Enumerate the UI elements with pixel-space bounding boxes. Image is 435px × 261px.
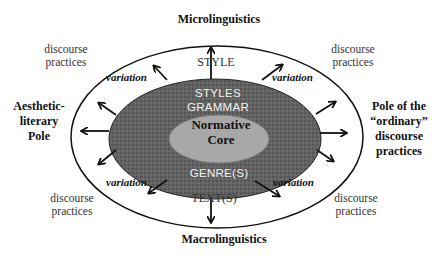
genres-label: GENRE(S) xyxy=(183,166,255,180)
discourse-practices-top-right: discourse practices xyxy=(323,43,383,69)
discourse-practices-bottom-right: discourse practices xyxy=(326,192,386,218)
microlinguistics-label: Microlinguistics xyxy=(172,13,266,26)
macrolinguistics-label: Macrolinguistics xyxy=(176,233,272,246)
variation-label-bottom-left: variation xyxy=(106,176,147,189)
texts-label: TEXT(S) xyxy=(186,192,242,205)
aesthetic-literary-pole-label: Aesthetic- literary Pole xyxy=(6,99,72,144)
style-label: STYLE xyxy=(191,56,241,69)
variation-label-top-left: variation xyxy=(106,71,147,84)
normative-core-label: Normative Core xyxy=(184,117,258,147)
styles-grammar-label: STYLES GRAMMAR xyxy=(175,86,261,114)
discourse-practices-bottom-left: discourse practices xyxy=(42,192,102,218)
ordinary-discourse-pole-label: Pole of the “ordinary” discourse practic… xyxy=(364,99,434,159)
variation-label-top-right: variation xyxy=(272,71,313,84)
diagram-canvas: Microlinguistics Macrolinguistics Aesthe… xyxy=(0,0,435,261)
variation-label-bottom-right: variation xyxy=(273,176,314,189)
discourse-practices-top-left: discourse practices xyxy=(36,43,96,69)
